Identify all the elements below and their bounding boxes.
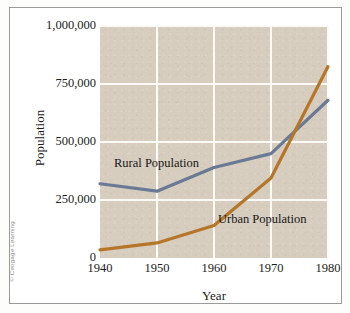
x-axis-title: Year (100, 288, 328, 304)
line-series-rural-population (100, 100, 328, 191)
series-label-rural: Rural Population (114, 156, 199, 171)
plot-area: Rural Population Urban Population (100, 26, 328, 258)
x-tick-label: 1950 (133, 261, 181, 276)
y-axis-tick-labels: 0250,000500,000750,0001,000,000 (0, 26, 96, 258)
y-tick-label: 1,000,000 (4, 18, 96, 33)
y-tick-label: 750,000 (4, 76, 96, 91)
x-axis-tick-labels: 19401950196019701980 (100, 261, 328, 281)
series-label-urban: Urban Population (218, 212, 307, 227)
x-tick-label: 1960 (190, 261, 238, 276)
x-tick-label: 1940 (76, 261, 124, 276)
figure-container: © Cengage Learning Population Year 0250,… (0, 0, 350, 313)
x-tick-label: 1970 (247, 261, 295, 276)
y-tick-label: 500,000 (4, 134, 96, 149)
x-tick-label: 1980 (304, 261, 350, 276)
y-tick-label: 250,000 (4, 192, 96, 207)
